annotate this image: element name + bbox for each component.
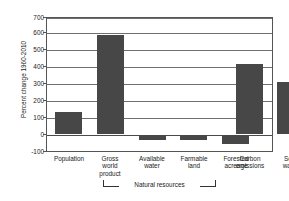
ytick-label-100: 100 <box>4 114 44 121</box>
ytick-label-200: 200 <box>4 97 44 104</box>
ytick-mark-200 <box>43 100 46 101</box>
ytick-label--100: -100 <box>4 148 44 155</box>
bar-solid-waste <box>277 82 289 134</box>
xlabel-line: emissions <box>226 162 274 169</box>
ytick-mark-300 <box>43 83 46 84</box>
x-axis-labels-right: Carbon emissions Solid waste <box>46 153 273 183</box>
ytick-mark-100 <box>43 117 46 118</box>
ytick-label-500: 500 <box>4 46 44 53</box>
xlabel-carbon-emissions: Carbon emissions <box>226 155 274 170</box>
bar-chart: Percent change 1960-2010 700 600 500 400… <box>0 0 289 201</box>
xlabel-solid-waste: Solid waste <box>270 155 289 170</box>
ytick-mark-700 <box>43 17 46 18</box>
ytick-label-400: 400 <box>4 63 44 70</box>
bars-layer-right <box>46 17 273 152</box>
xlabel-line: Solid <box>270 155 289 162</box>
ytick-mark-400 <box>43 66 46 67</box>
bracket-label: Natural resources <box>103 181 216 188</box>
ytick-label-600: 600 <box>4 29 44 36</box>
bar-carbon-emissions-2 <box>236 64 263 134</box>
ytick-mark--100 <box>43 151 46 152</box>
ytick-mark-600 <box>43 32 46 33</box>
ytick-mark-0 <box>43 134 46 135</box>
xlabel-line: waste <box>270 162 289 169</box>
ytick-label-300: 300 <box>4 80 44 87</box>
ytick-label-0: 0 <box>4 131 44 138</box>
ytick-mark-500 <box>43 49 46 50</box>
ytick-label-700: 700 <box>4 14 44 21</box>
xlabel-line: Carbon <box>226 155 274 162</box>
